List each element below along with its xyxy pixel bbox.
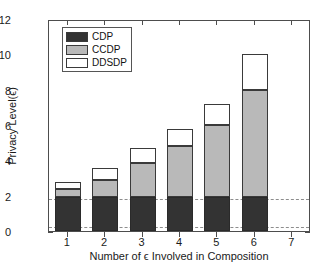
legend-swatch-ddsdp [66,58,88,68]
legend-label: CDP [92,32,113,42]
bar-segment-ccdp[interactable] [167,146,193,197]
bar-segment-ccdp[interactable] [130,163,156,197]
bar-group[interactable] [204,19,230,231]
x-tick-label: 1 [64,236,70,248]
y-tick-label: 10 [0,49,11,61]
x-tick-mark-top [142,20,143,25]
legend-label: DDSDP [92,58,127,68]
bar-segment-ccdp[interactable] [204,125,230,197]
legend: CDPCCDPDDSDP [62,27,132,72]
x-tick-mark-top [104,20,105,25]
bar-segment-cdp[interactable] [130,197,156,231]
bar-segment-ccdp[interactable] [55,189,81,198]
bar-segment-ddsdp[interactable] [130,148,156,163]
legend-label: CCDP [92,45,120,55]
x-tick-mark [216,232,217,237]
x-tick-mark-top [67,20,68,25]
bar-group[interactable] [242,19,268,231]
y-tick-mark [48,232,53,233]
bar-segment-cdp[interactable] [167,197,193,231]
x-tick-mark-top [179,20,180,25]
x-tick-mark-top [291,20,292,25]
y-tick-label: 4 [5,155,11,167]
bar-segment-cdp[interactable] [204,197,230,231]
bar-group[interactable] [167,19,193,231]
y-tick-label: 8 [5,85,11,97]
figure: Privacy Level(ϵ) 024681012 1234567 Numbe… [0,0,325,267]
y-tick-label: 6 [5,120,11,132]
x-tick-mark [179,232,180,237]
bar-group[interactable] [130,19,156,231]
bar-segment-cdp[interactable] [242,197,268,231]
x-tick-mark [67,232,68,237]
legend-swatch-cdp [66,32,88,42]
y-tick-label: 2 [5,191,11,203]
legend-item-ccdp[interactable]: CCDP [66,44,127,55]
x-axis-label: Number of ϵ Involved in Composition [89,250,268,262]
bar-segment-ddsdp[interactable] [92,168,118,179]
legend-item-cdp[interactable]: CDP [66,31,127,42]
bar-segment-ddsdp[interactable] [204,104,230,125]
bar-segment-ddsdp[interactable] [242,54,268,89]
bar-segment-cdp[interactable] [92,197,118,231]
bar-segment-ccdp[interactable] [92,180,118,198]
x-tick-mark [104,232,105,237]
legend-item-ddsdp[interactable]: DDSDP [66,57,127,68]
x-tick-label: 6 [251,236,257,248]
x-tick-label: 5 [213,236,219,248]
x-tick-mark [142,232,143,237]
y-tick-label: 12 [0,14,11,26]
y-axis-label-wrapper: Privacy Level(ϵ) [18,0,19,267]
x-tick-label: 4 [176,236,182,248]
y-tick-mark-right [305,232,310,233]
x-tick-label: 3 [139,236,145,248]
x-tick-mark [291,232,292,237]
bar-segment-ccdp[interactable] [242,90,268,198]
y-tick-label: 0 [5,226,11,238]
x-tick-label: 2 [101,236,107,248]
x-tick-label: 7 [288,236,294,248]
x-tick-mark [254,232,255,237]
bar-segment-ddsdp[interactable] [167,129,193,147]
x-tick-mark-top [254,20,255,25]
legend-swatch-ccdp [66,45,88,55]
bar-segment-cdp[interactable] [55,197,81,231]
x-tick-mark-top [216,20,217,25]
